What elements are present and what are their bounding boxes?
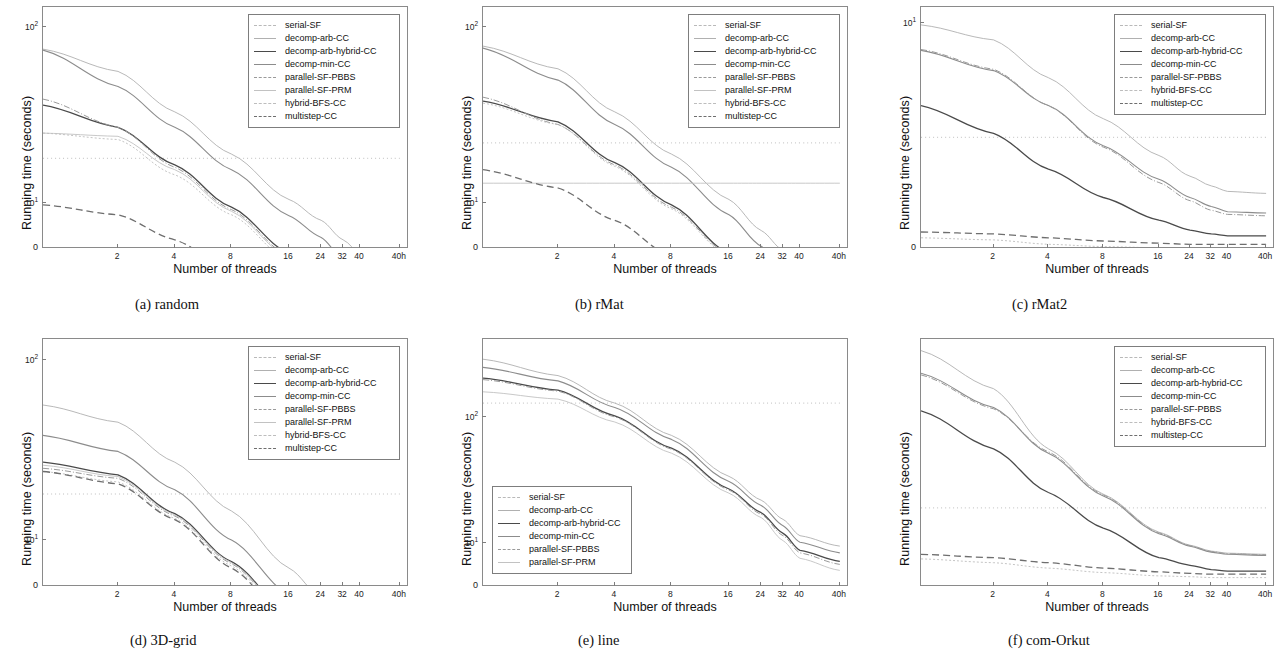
legend-item[interactable]: decomp-arb-CC: [254, 364, 393, 377]
curve-parallel-SF-PRM: [43, 133, 400, 248]
legend-item[interactable]: parallel-SF-PRM: [254, 416, 393, 429]
legend-item[interactable]: serial-SF: [1120, 19, 1259, 32]
legend-item[interactable]: decomp-min-CC: [254, 390, 393, 403]
legend-item[interactable]: decomp-min-CC: [254, 58, 393, 71]
y-tick-0: 0: [890, 242, 916, 252]
x-tickmark: [993, 582, 994, 586]
legend-item[interactable]: parallel-SF-PBBS: [254, 71, 393, 84]
legend-item[interactable]: parallel-SF-PRM: [694, 84, 833, 97]
x-tick-8: 8: [1086, 251, 1118, 261]
legend-item[interactable]: decomp-min-CC: [694, 58, 833, 71]
curve-hybrid-BFS-CC: [43, 133, 400, 248]
legend-item[interactable]: multistep-CC: [254, 110, 393, 123]
legend-item[interactable]: serial-SF: [694, 19, 833, 32]
x-tick-4: 4: [158, 589, 190, 599]
legend-item[interactable]: multistep-CC: [1120, 97, 1259, 110]
legend-item[interactable]: parallel-SF-PBBS: [1120, 71, 1259, 84]
legend-item[interactable]: decomp-arb-CC: [498, 504, 625, 517]
legend-label: parallel-SF-PRM: [529, 556, 596, 569]
legend-item[interactable]: decomp-arb-CC: [254, 32, 393, 45]
y-tickmark: [482, 542, 486, 543]
legend-key-icon: [1120, 34, 1142, 43]
legend-item[interactable]: serial-SF: [498, 491, 625, 504]
legend-item[interactable]: multistep-CC: [254, 442, 393, 455]
legend-item[interactable]: serial-SF: [254, 351, 393, 364]
x-tick-40: 40: [343, 251, 375, 261]
legend-key-icon: [694, 112, 716, 121]
legend-item[interactable]: parallel-SF-PBBS: [694, 71, 833, 84]
x-tickmark: [799, 582, 800, 586]
legend-label: serial-SF: [1151, 19, 1187, 32]
legend-item[interactable]: decomp-arb-hybrid-CC: [254, 377, 393, 390]
legend-item[interactable]: decomp-arb-hybrid-CC: [1120, 45, 1259, 58]
legend-item[interactable]: hybrid-BFS-CC: [1120, 416, 1259, 429]
legend-key-icon: [498, 506, 520, 515]
x-tickmark: [799, 244, 800, 248]
legend-label: parallel-SF-PRM: [725, 84, 792, 97]
legend-label: decomp-arb-CC: [285, 32, 349, 45]
x-tick-40h: 40h: [383, 251, 415, 261]
x-tickmark: [760, 582, 761, 586]
legend-item[interactable]: decomp-arb-CC: [1120, 32, 1259, 45]
legend-item[interactable]: decomp-arb-CC: [1120, 364, 1259, 377]
legend-item[interactable]: hybrid-BFS-CC: [1120, 84, 1259, 97]
legend-key-icon: [254, 60, 276, 69]
legend-key-icon: [694, 73, 716, 82]
legend-key-icon: [1120, 405, 1142, 414]
x-axis-label: Number of threads: [920, 600, 1274, 614]
y-axis-label: Running time (seconds): [460, 96, 474, 230]
legend-label: hybrid-BFS-CC: [725, 97, 786, 110]
legend-item[interactable]: multistep-CC: [1120, 429, 1259, 442]
legend-key-icon: [498, 558, 520, 567]
x-tickmark: [1047, 244, 1048, 248]
legend-item[interactable]: decomp-arb-CC: [694, 32, 833, 45]
y-axis-label: Running time (seconds): [20, 432, 34, 566]
legend-item[interactable]: parallel-SF-PRM: [498, 556, 625, 569]
legend-label: multistep-CC: [285, 110, 337, 123]
legend-label: parallel-SF-PBBS: [285, 403, 356, 416]
legend-label: decomp-arb-hybrid-CC: [1151, 45, 1243, 58]
x-tick-8: 8: [654, 251, 686, 261]
legend-key-icon: [254, 366, 276, 375]
x-tickmark: [1227, 582, 1228, 586]
legend-key-icon: [254, 392, 276, 401]
legend-key-icon: [694, 86, 716, 95]
legend-item[interactable]: hybrid-BFS-CC: [254, 97, 393, 110]
legend-item[interactable]: parallel-SF-PBBS: [1120, 403, 1259, 416]
legend-label: parallel-SF-PRM: [285, 416, 352, 429]
legend-item[interactable]: serial-SF: [254, 19, 393, 32]
legend-key-icon: [498, 532, 520, 541]
subplot-caption-b: (b) rMat: [575, 296, 624, 313]
x-tickmark: [670, 582, 671, 586]
legend-item[interactable]: decomp-min-CC: [498, 530, 625, 543]
legend-item[interactable]: decomp-arb-hybrid-CC: [694, 45, 833, 58]
x-tickmark: [782, 244, 783, 248]
legend-label: serial-SF: [1151, 351, 1187, 364]
legend-item[interactable]: parallel-SF-PBBS: [254, 403, 393, 416]
legend-item[interactable]: parallel-SF-PRM: [254, 84, 393, 97]
legend-item[interactable]: hybrid-BFS-CC: [694, 97, 833, 110]
legend-item[interactable]: hybrid-BFS-CC: [254, 429, 393, 442]
legend-key-icon: [254, 431, 276, 440]
legend-item[interactable]: multistep-CC: [694, 110, 833, 123]
y-tick-0: 0: [452, 242, 478, 252]
legend-key-icon: [498, 545, 520, 554]
legend-item[interactable]: decomp-arb-hybrid-CC: [1120, 377, 1259, 390]
x-tickmark: [1102, 582, 1103, 586]
legend-item[interactable]: decomp-min-CC: [1120, 390, 1259, 403]
legend-item[interactable]: serial-SF: [1120, 351, 1259, 364]
legend-label: decomp-min-CC: [529, 530, 595, 543]
legend: serial-SFdecomp-arb-CCdecomp-arb-hybrid-…: [492, 486, 632, 574]
legend-item[interactable]: parallel-SF-PBBS: [498, 543, 625, 556]
x-axis-label: Number of threads: [482, 600, 848, 614]
legend-item[interactable]: decomp-arb-hybrid-CC: [498, 517, 625, 530]
legend-item[interactable]: decomp-arb-hybrid-CC: [254, 45, 393, 58]
x-tickmark: [1158, 582, 1159, 586]
x-tick-16: 16: [712, 251, 744, 261]
y-tickmark: [482, 26, 486, 27]
legend-key-icon: [254, 34, 276, 43]
legend-key-icon: [498, 519, 520, 528]
legend-item[interactable]: decomp-min-CC: [1120, 58, 1259, 71]
legend-label: decomp-arb-CC: [1151, 364, 1215, 377]
x-tickmark: [399, 582, 400, 586]
